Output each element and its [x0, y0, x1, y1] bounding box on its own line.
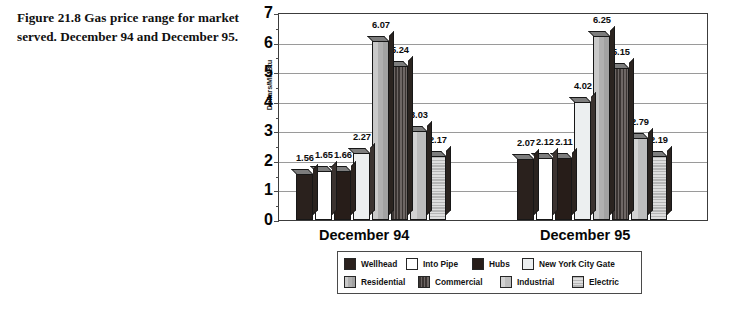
legend-item-new-york-city-gate[interactable]: New York City Gate [522, 258, 632, 270]
y-minor-tick-mark [276, 118, 279, 119]
legend-swatch-hubs-icon [472, 258, 484, 270]
y-minor-tick-mark [276, 88, 279, 89]
legend-item-electric[interactable]: Electric [572, 276, 630, 288]
bar-value-label: 2.27 [344, 132, 380, 142]
y-minor-tick-mark [276, 147, 279, 148]
bar-top-face [588, 31, 610, 36]
y-tick-label-1: 1 [253, 182, 273, 198]
legend-row-2: ResidentialCommercialIndustrialElectric [344, 274, 635, 290]
y-tick-label-3: 3 [253, 123, 273, 139]
bar-side-face [389, 31, 394, 215]
bar-side-face [351, 161, 356, 215]
figure-caption: Figure 21.8 Gas price range for market s… [17, 9, 239, 46]
legend-swatch-commercial-icon [418, 276, 430, 288]
y-tick-label-0: 0 [253, 212, 273, 228]
bar-value-label: 6.07 [363, 20, 399, 30]
gridline [279, 103, 707, 104]
legend-label: Industrial [517, 277, 554, 287]
bar-side-face [610, 26, 615, 215]
bar-value-label: 2.07 [508, 138, 544, 148]
legend-item-wellhead[interactable]: Wellhead [344, 258, 406, 270]
bar-side-face [591, 92, 596, 215]
bar-side-face [648, 128, 653, 215]
legend-label: Into Pipe [423, 259, 458, 269]
legend-item-residential[interactable]: Residential [344, 276, 418, 288]
chart-legend: WellheadInto PipeHubsNew York City Gate … [337, 251, 642, 294]
bar-top-face [291, 169, 313, 174]
legend-row-1: WellheadInto PipeHubsNew York City Gate [344, 256, 635, 272]
bar-top-face [367, 36, 389, 41]
y-minor-tick-mark [276, 58, 279, 59]
bar-front-face [296, 174, 313, 220]
legend-swatch-wellhead-icon [344, 258, 356, 270]
legend-label: New York City Gate [539, 259, 615, 269]
y-tick-label-7: 7 [253, 5, 273, 21]
y-minor-tick-mark [276, 177, 279, 178]
bar-side-face [629, 58, 634, 215]
bar-top-face [569, 97, 591, 102]
legend-swatch-into-pipe-icon [406, 258, 418, 270]
bar-side-face [332, 161, 337, 215]
y-tick-mark [274, 221, 279, 222]
legend-item-hubs[interactable]: Hubs [472, 258, 522, 270]
y-minor-tick-mark [276, 29, 279, 30]
y-tick-label-4: 4 [253, 94, 273, 110]
bar-december-94-wellhead: 1.56 [296, 174, 313, 220]
bar-side-face [370, 143, 375, 215]
bar-front-face [517, 159, 534, 220]
x-axis-label-december-95: December 95 [540, 227, 630, 243]
legend-label: Wellhead [361, 259, 397, 269]
legend-label: Electric [589, 277, 619, 287]
legend-label: Residential [361, 277, 405, 287]
bar-value-label: 1.56 [287, 153, 323, 163]
y-minor-tick-mark [276, 206, 279, 207]
bar-side-face [408, 56, 413, 215]
legend-item-commercial[interactable]: Commercial [418, 276, 500, 288]
y-tick-label-6: 6 [253, 35, 273, 51]
y-tick-mark [274, 14, 279, 15]
legend-swatch-residential-icon [344, 276, 356, 288]
legend-swatch-industrial-icon [500, 276, 512, 288]
chart-figure: Dollars/MMBtu 01234567 1.561.651.662.276… [247, 0, 730, 311]
legend-swatch-new-york-city-gate-icon [522, 258, 534, 270]
x-axis-label-december-94: December 94 [319, 227, 409, 243]
bar-side-face [427, 121, 432, 215]
gridline [279, 73, 707, 74]
bar-side-face [446, 146, 451, 215]
gridline [279, 44, 707, 45]
y-tick-label-2: 2 [253, 153, 273, 169]
bar-side-face [313, 164, 318, 215]
legend-item-industrial[interactable]: Industrial [500, 276, 572, 288]
bar-december-95-wellhead: 2.07 [517, 159, 534, 220]
legend-item-into-pipe[interactable]: Into Pipe [406, 258, 472, 270]
plot-area: 1.561.651.662.276.075.243.032.172.072.12… [278, 13, 708, 221]
y-axis-tick-labels: 01234567 [247, 0, 273, 311]
legend-swatch-electric-icon [572, 276, 584, 288]
y-tick-label-5: 5 [253, 64, 273, 80]
bar-side-face [553, 148, 558, 215]
bar-value-label: 4.02 [565, 81, 601, 91]
legend-label: Hubs [489, 259, 510, 269]
bar-top-face [512, 154, 534, 159]
bar-value-label: 6.25 [584, 15, 620, 25]
legend-label: Commercial [435, 277, 483, 287]
